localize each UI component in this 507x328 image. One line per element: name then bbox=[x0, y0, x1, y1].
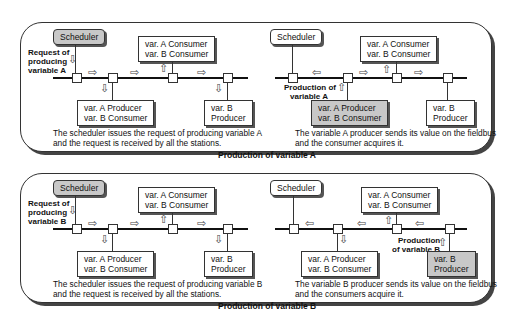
fieldbus-line bbox=[275, 77, 467, 79]
connector bbox=[172, 212, 173, 225]
arrow-down-icon: ⇩ bbox=[214, 234, 223, 244]
bus-node bbox=[72, 73, 82, 83]
bus-node bbox=[108, 224, 118, 234]
arrow-right-icon: ⇨ bbox=[197, 67, 206, 77]
connector bbox=[172, 61, 173, 74]
bus-node bbox=[108, 73, 118, 83]
scheduler-label: Scheduler bbox=[60, 32, 98, 42]
consumer-box: var. A Consumervar. B Consumer bbox=[138, 36, 215, 62]
arrow-up-icon: ⇧ bbox=[159, 63, 168, 73]
arrow-right-icon: ⇨ bbox=[130, 67, 139, 77]
connector bbox=[112, 82, 113, 100]
scheduler-box: Scheduler bbox=[270, 29, 322, 45]
bus-node bbox=[223, 73, 233, 83]
connector bbox=[396, 61, 397, 74]
consumer-box: var. A Consumervar. B Consumer bbox=[361, 187, 438, 213]
arrow-left-icon: ⇦ bbox=[415, 218, 424, 228]
bus-node bbox=[288, 73, 298, 83]
request-label: Request of producing variable A bbox=[28, 48, 69, 75]
arrow-down-icon: ⇩ bbox=[100, 234, 109, 244]
arrow-up-icon: ⇧ bbox=[337, 82, 346, 92]
fieldbus-line bbox=[53, 228, 248, 230]
b-producer-box-active: var. BProducer bbox=[427, 251, 476, 277]
b-producer-box: var. BProducer bbox=[426, 100, 475, 126]
bus-node bbox=[168, 73, 178, 83]
producer-box: var. A Producervar. B Consumer bbox=[77, 251, 154, 277]
bus-node bbox=[289, 224, 299, 234]
bus-node bbox=[392, 224, 402, 234]
arrow-up-icon: ⇧ bbox=[438, 237, 447, 247]
arrow-right-icon: ⇨ bbox=[197, 218, 206, 228]
bus-node bbox=[223, 224, 233, 234]
arrow-right-icon: ⇨ bbox=[130, 218, 139, 228]
connector bbox=[227, 82, 228, 100]
connector bbox=[337, 233, 338, 251]
fieldbus-line bbox=[275, 228, 467, 230]
arrow-up-icon: ⇧ bbox=[384, 215, 393, 225]
caption: The variable B producer sends its value … bbox=[295, 279, 497, 299]
scheduler-label: Scheduler bbox=[277, 183, 315, 193]
producer-box-active: var. A Producervar. B Consumer bbox=[311, 100, 388, 126]
bus-node bbox=[392, 73, 402, 83]
caption: The scheduler issues the request of prod… bbox=[53, 128, 262, 148]
arrow-right-icon: ⇨ bbox=[88, 218, 97, 228]
producer-box: var. A Producervar. B Consumer bbox=[301, 251, 378, 277]
panel-title: Production of variable A bbox=[218, 150, 316, 160]
scheduler-label: Scheduler bbox=[277, 32, 315, 42]
arrow-right-icon: ⇨ bbox=[414, 67, 423, 77]
request-label: Request of producing variable B bbox=[28, 199, 69, 226]
bus-node bbox=[72, 224, 82, 234]
arrow-left-icon: ⇦ bbox=[357, 218, 366, 228]
arrow-down-icon: ⇩ bbox=[214, 83, 223, 93]
bus-node bbox=[168, 224, 178, 234]
arrow-right-icon: ⇨ bbox=[88, 67, 97, 77]
arrow-down-icon: ⇩ bbox=[68, 54, 77, 64]
connector bbox=[449, 233, 450, 251]
scheduler-label: Scheduler bbox=[60, 183, 98, 193]
bus-node bbox=[445, 224, 455, 234]
connector bbox=[112, 233, 113, 251]
arrow-left-icon: ⇦ bbox=[305, 218, 314, 228]
arrow-left-icon: ⇦ bbox=[312, 67, 321, 77]
fieldbus-line bbox=[53, 77, 248, 79]
scheduler-box: Scheduler bbox=[270, 180, 322, 196]
connector bbox=[227, 233, 228, 251]
connector bbox=[292, 45, 293, 76]
b-producer-box: var. BProducer bbox=[204, 251, 253, 277]
scheduler-box: Scheduler bbox=[53, 180, 105, 196]
caption: The scheduler issues the request of prod… bbox=[53, 279, 262, 299]
caption: The variable A producer sends its value … bbox=[295, 128, 496, 148]
connector bbox=[347, 82, 348, 100]
scheduler-box: Scheduler bbox=[53, 29, 105, 45]
arrow-right-icon: ⇨ bbox=[359, 67, 368, 77]
production-label: Production of variable A bbox=[284, 83, 336, 101]
arrow-up-icon: ⇧ bbox=[159, 214, 168, 224]
producer-box: var. A Producervar. B Consumer bbox=[77, 100, 154, 126]
b-producer-box: var. BProducer bbox=[204, 100, 253, 126]
bus-node bbox=[443, 73, 453, 83]
connector bbox=[293, 196, 294, 227]
connector bbox=[447, 82, 448, 100]
panel-title: Production of variable B bbox=[218, 301, 316, 311]
arrow-down-icon: ⇩ bbox=[68, 205, 77, 215]
arrow-up-icon: ⇧ bbox=[382, 64, 391, 74]
connector bbox=[396, 212, 397, 225]
arrow-down-icon: ⇩ bbox=[100, 83, 109, 93]
arrow-down-icon: ⇩ bbox=[339, 234, 348, 244]
consumer-box: var. A Consumervar. B Consumer bbox=[138, 187, 215, 213]
consumer-box: var. A Consumervar. B Consumer bbox=[360, 36, 437, 62]
